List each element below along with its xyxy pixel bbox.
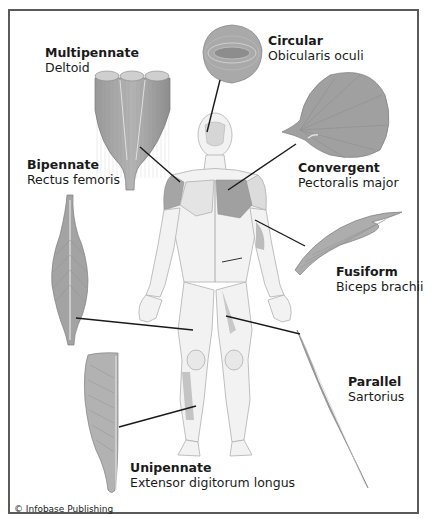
- body-arm-left: [146, 208, 180, 297]
- muscle-name: Obicularis oculi: [268, 48, 364, 63]
- muscle-name: Extensor digitorum longus: [130, 475, 295, 490]
- body-arm-right: [250, 208, 284, 297]
- parallel-muscle-icon: [297, 330, 368, 488]
- fiber-type-name: Unipennate: [130, 460, 295, 475]
- body-hand-left: [139, 295, 162, 322]
- body-neck: [204, 155, 226, 170]
- label-bipennate: Bipennate Rectus femoris: [27, 157, 120, 187]
- muscle-name: Rectus femoris: [27, 172, 120, 187]
- muscle-name: Sartorius: [348, 389, 404, 404]
- unipennate-muscle-icon: [84, 353, 118, 493]
- leader-line-bipennate: [76, 318, 193, 330]
- fiber-type-name: Multipennate: [45, 45, 139, 60]
- fiber-type-name: Convergent: [298, 160, 399, 175]
- muscle-name: Pectoralis major: [298, 175, 399, 190]
- label-fusiform: Fusiform Biceps brachii: [336, 264, 424, 294]
- fiber-type-name: Parallel: [348, 374, 404, 389]
- label-circular: Circular Obicularis oculi: [268, 33, 364, 63]
- muscle-name: Biceps brachii: [336, 279, 424, 294]
- convergent-muscle-icon: [282, 73, 389, 159]
- label-parallel: Parallel Sartorius: [348, 374, 404, 404]
- fiber-type-name: Bipennate: [27, 157, 120, 172]
- fiber-type-name: Circular: [268, 33, 364, 48]
- bipennate-muscle-icon: [52, 195, 88, 345]
- body-foot-left: [178, 440, 200, 456]
- copyright-credit: © Infobase Publishing: [14, 504, 113, 514]
- body-foot-right: [230, 440, 252, 456]
- muscle-name: Deltoid: [45, 60, 139, 75]
- body-hand-right: [268, 295, 291, 322]
- label-multipennate: Multipennate Deltoid: [45, 45, 139, 75]
- label-unipennate: Unipennate Extensor digitorum longus: [130, 460, 295, 490]
- circular-muscle-icon: [203, 25, 262, 83]
- fiber-type-name: Fusiform: [336, 264, 424, 279]
- label-convergent: Convergent Pectoralis major: [298, 160, 399, 190]
